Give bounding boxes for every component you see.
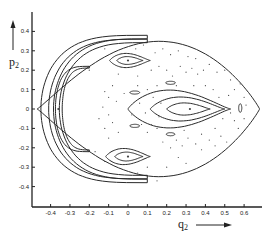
chaotic-point xyxy=(220,136,221,137)
chaotic-point xyxy=(156,128,157,129)
upper-island-inner xyxy=(117,57,143,65)
chaotic-point xyxy=(158,66,159,67)
y-label-text: p2 xyxy=(9,55,19,70)
chaotic-point xyxy=(147,89,148,90)
x-ticks: -0.4-0.3-0.2-0.100.10.20.30.40.50.6 xyxy=(45,204,249,216)
x-tick-label: 0.2 xyxy=(163,210,172,216)
chaotic-point xyxy=(244,118,245,119)
upper-island-outer xyxy=(110,53,151,67)
chaotic-point xyxy=(108,97,109,98)
chaotic-point xyxy=(224,70,225,71)
chaotic-point xyxy=(244,97,245,98)
chaotic-point xyxy=(118,132,119,133)
small-island-upper-left xyxy=(130,91,140,94)
chaotic-point xyxy=(108,138,109,139)
chaotic-point xyxy=(141,124,142,125)
chaotic-point xyxy=(172,75,173,76)
central-island-middle xyxy=(150,97,225,121)
upper-island-center xyxy=(127,59,129,61)
chaotic-point xyxy=(95,151,96,152)
chaotic-point xyxy=(191,68,192,69)
x-tick-label: -0.3 xyxy=(65,210,76,216)
chaotic-point xyxy=(98,118,99,119)
chaotic-point xyxy=(104,91,105,92)
chaotic-point xyxy=(214,128,215,129)
chaotic-point xyxy=(209,64,210,65)
chaotic-point xyxy=(230,79,231,80)
chaotic-point xyxy=(147,167,148,168)
chaotic-point xyxy=(238,128,239,129)
chaotic-point xyxy=(156,85,157,86)
x-tick-label: 0.1 xyxy=(143,210,152,216)
chaotic-point xyxy=(153,97,154,98)
x-tick-label: 0.5 xyxy=(221,210,230,216)
chaotic-point xyxy=(151,70,152,71)
chaotic-point xyxy=(170,54,171,55)
y-tick-label: 0.1 xyxy=(21,87,30,93)
chaotic-point xyxy=(160,103,161,104)
orbit-curves xyxy=(37,35,260,182)
chaotic-point xyxy=(222,118,223,119)
arrow-up-icon xyxy=(11,20,16,28)
y-tick-label: 0 xyxy=(26,106,30,112)
chaotic-point xyxy=(218,97,219,98)
y-tick-label: -0.4 xyxy=(19,184,30,190)
chaotic-point xyxy=(185,72,186,73)
chaotic-point xyxy=(162,48,163,49)
crescent-middle xyxy=(49,39,148,179)
chaotic-point xyxy=(187,56,188,57)
chaotic-point xyxy=(166,70,167,71)
y-tick-label: 0.3 xyxy=(21,48,30,54)
x-label-text: q2 xyxy=(178,217,188,232)
chaotic-point xyxy=(197,73,198,74)
chaotic-point xyxy=(216,72,217,73)
chaotic-point xyxy=(205,85,206,86)
chaotic-point xyxy=(226,141,227,142)
arrow-right-icon xyxy=(224,223,232,228)
chaotic-point xyxy=(108,114,109,115)
chaotic-point xyxy=(135,48,136,49)
phase-space-plot: -0.4-0.3-0.2-0.100.10.20.30.40.50.6 0.40… xyxy=(0,0,276,234)
chaotic-point xyxy=(182,145,183,146)
chaotic-point xyxy=(234,120,235,121)
chaotic-point xyxy=(187,138,188,139)
chaotic-point xyxy=(151,124,152,125)
x-tick-label: 0.3 xyxy=(182,210,191,216)
y-tick-label: 0.2 xyxy=(21,67,30,73)
small-island-lower-left xyxy=(130,124,140,127)
x-tick-label: 0.6 xyxy=(240,210,249,216)
central-island-inner xyxy=(167,103,211,115)
small-island-right xyxy=(239,104,242,113)
chaotic-point xyxy=(102,106,103,107)
left-crescent-point xyxy=(57,108,59,110)
chaotic-point xyxy=(158,116,159,117)
x-tick-label: 0 xyxy=(126,210,130,216)
chaotic-point xyxy=(178,157,179,158)
chaotic-point xyxy=(104,161,105,162)
chaotic-point xyxy=(139,103,140,104)
chaotic-point xyxy=(147,132,148,133)
chaotic-point xyxy=(178,50,179,51)
chaotic-point xyxy=(230,112,231,113)
chaotic-point xyxy=(201,149,202,150)
y-tick-label: -0.3 xyxy=(19,164,30,170)
chaotic-point xyxy=(154,52,155,53)
chaotic-point xyxy=(195,58,196,59)
chaotic-point xyxy=(184,130,185,131)
chaotic-point xyxy=(162,141,163,142)
chaotic-point xyxy=(156,180,157,181)
chaotic-point xyxy=(176,85,177,86)
chaotic-point xyxy=(213,89,214,90)
chaotic-point xyxy=(193,85,194,86)
chaotic-point xyxy=(228,95,229,96)
chaotic-point xyxy=(104,128,105,129)
chaotic-point xyxy=(118,73,119,74)
chaotic-point xyxy=(185,163,186,164)
y-tick-label: -0.2 xyxy=(19,145,30,151)
chaotic-point xyxy=(195,143,196,144)
chaotic-point xyxy=(170,147,171,148)
chaotic-point xyxy=(180,66,181,67)
chaotic-point xyxy=(137,85,138,86)
chaotic-point xyxy=(240,83,241,84)
x-tick-label: -0.4 xyxy=(45,210,56,216)
